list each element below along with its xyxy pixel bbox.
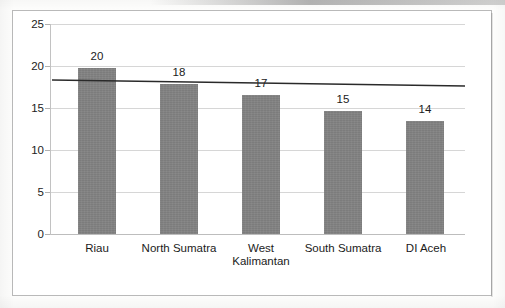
y-tick-label: 25: [16, 19, 44, 31]
x-label-north-sumatra: North Sumatra: [137, 242, 221, 255]
y-axis-tick: [45, 66, 50, 67]
y-tick-label: 10: [16, 145, 44, 157]
plot-area: 20 18 17 15 14: [50, 24, 465, 234]
x-label-line: Riau: [57, 242, 137, 255]
x-label-di-aceh: DI Aceh: [387, 242, 465, 255]
y-axis-tick: [45, 24, 50, 25]
y-axis-tick: [45, 234, 50, 235]
bar-value-label-west-kalimantan: 17: [242, 78, 280, 90]
x-label-line: North Sumatra: [137, 242, 221, 255]
bar-di-aceh[interactable]: [406, 121, 444, 234]
scan-smudge: [150, 0, 505, 5]
x-label-riau: Riau: [57, 242, 137, 255]
x-label-line: Kalimantan: [221, 255, 301, 268]
y-axis-line: [50, 24, 51, 235]
gridline-20: [50, 66, 465, 67]
x-label-west-kalimantan: West Kalimantan: [221, 242, 301, 268]
gridline-0-baseline: [50, 234, 465, 235]
y-tick-label: 0: [16, 229, 44, 241]
gridline-25: [50, 24, 465, 25]
x-label-line: South Sumatra: [301, 242, 385, 255]
bar-south-sumatra[interactable]: [324, 111, 362, 234]
bar-riau[interactable]: [78, 68, 116, 234]
chart-page: 25 20 15 10 5 0 20 18 17 15 14: [0, 0, 505, 308]
x-label-line: West: [221, 242, 301, 255]
bar-west-kalimantan[interactable]: [242, 95, 280, 234]
y-axis-tick: [45, 192, 50, 193]
bar-value-label-di-aceh: 14: [406, 104, 444, 116]
y-axis-labels: 25 20 15 10 5 0: [10, 0, 44, 308]
bar-value-label-riau: 20: [78, 51, 116, 63]
bar-value-label-south-sumatra: 15: [324, 94, 362, 106]
y-tick-label: 20: [16, 61, 44, 73]
x-label-line: DI Aceh: [387, 242, 465, 255]
bar-value-label-north-sumatra: 18: [160, 67, 198, 79]
y-axis-tick: [45, 108, 50, 109]
y-axis-tick: [45, 150, 50, 151]
x-label-south-sumatra: South Sumatra: [301, 242, 385, 255]
bar-north-sumatra[interactable]: [160, 84, 198, 234]
x-axis-labels: Riau North Sumatra West Kalimantan South…: [50, 242, 465, 294]
y-tick-label: 15: [16, 103, 44, 115]
y-tick-label: 5: [16, 187, 44, 199]
